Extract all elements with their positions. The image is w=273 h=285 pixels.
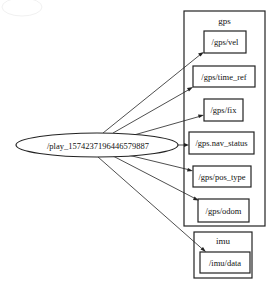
source-node[interactable]: /play_1574237196446579887 (16, 133, 178, 157)
cluster-gps-label: gps (218, 16, 231, 26)
source-node-label: /play_1574237196446579887 (47, 141, 149, 151)
cluster-gps: gps /gps/vel /gps/time_ref /gps/fix /gps… (184, 11, 265, 226)
edge-to-gps-time-ref (113, 89, 190, 133)
arrowhead-icon (198, 115, 204, 119)
topic-node[interactable]: /gps/time_ref (193, 66, 255, 87)
topic-node[interactable]: /gps/odom (198, 199, 249, 222)
topic-label: /gps/pos_type (198, 172, 245, 182)
arrowhead-icon (187, 87, 193, 92)
topic-label: /gps/time_ref (201, 72, 246, 82)
topic-label: /gps/fix (211, 105, 238, 115)
cluster-imu-label: imu (216, 236, 231, 246)
topic-label: /gps/vel (212, 37, 240, 47)
arrowhead-icon (184, 143, 189, 147)
topic-node[interactable]: /gps/vel (204, 31, 246, 53)
topic-label: /gps/odom (206, 206, 242, 216)
edge-to-gps-pos-type (128, 155, 190, 170)
topic-label: /imu/data (209, 258, 241, 268)
topic-node[interactable]: /gps.nav_status (189, 132, 254, 154)
arrowhead-icon (187, 168, 193, 172)
edge-to-gps-vel (103, 54, 201, 133)
topic-label: /gps.nav_status (195, 138, 247, 148)
topic-node[interactable]: /gps/pos_type (193, 166, 251, 187)
rqt-graph-diagram: gps /gps/vel /gps/time_ref /gps/fix /gps… (0, 0, 273, 285)
topic-node[interactable]: /gps/fix (204, 99, 243, 121)
background-artifact (2, 0, 42, 16)
cluster-imu: imu /imu/data (194, 232, 252, 278)
topic-node[interactable]: /imu/data (200, 252, 250, 273)
